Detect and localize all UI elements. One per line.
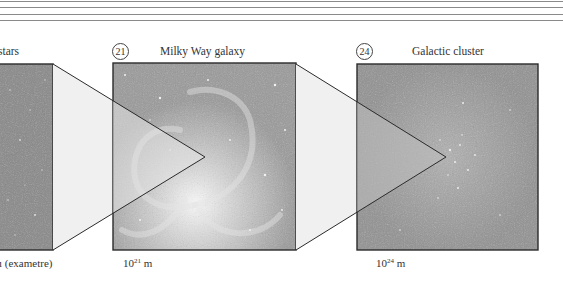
scale-label-galactic-cluster: 1024 m — [376, 258, 405, 269]
scale-label-milky-way: 1021 m — [123, 258, 152, 269]
scale-label-stars: ı (exametre) — [0, 258, 52, 269]
scale-base: 10 — [123, 257, 134, 269]
scale-unit: m — [397, 257, 406, 269]
stars-panel — [0, 64, 53, 250]
scale-unit: m — [144, 257, 153, 269]
scale-base: 10 — [376, 257, 387, 269]
powers-of-ten-diagram — [0, 0, 563, 286]
scale-exponent: 24 — [387, 257, 394, 265]
scale-exponent: 21 — [134, 257, 141, 265]
